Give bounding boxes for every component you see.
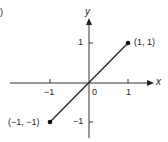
y-axis-arrow-icon xyxy=(86,18,92,25)
x-tick-label-neg1: −1 xyxy=(44,88,54,97)
annotation-1-1: (1, 1) xyxy=(134,38,155,47)
x-axis-arrow-icon xyxy=(147,80,154,86)
annotation-neg1-neg1: (−1, −1) xyxy=(8,118,40,127)
endpoint-1-1 xyxy=(126,41,131,46)
panel-label: ) xyxy=(0,8,3,17)
y-tick-label-neg1: −1 xyxy=(73,117,83,126)
endpoint-neg1-neg1 xyxy=(48,120,53,125)
x-tick-label-0: 0 xyxy=(92,88,97,97)
y-axis-label: y xyxy=(85,7,90,17)
x-tick-label-1: 1 xyxy=(126,88,131,97)
x-axis-label: x xyxy=(156,77,161,87)
y-tick-label-1: 1 xyxy=(78,38,83,47)
